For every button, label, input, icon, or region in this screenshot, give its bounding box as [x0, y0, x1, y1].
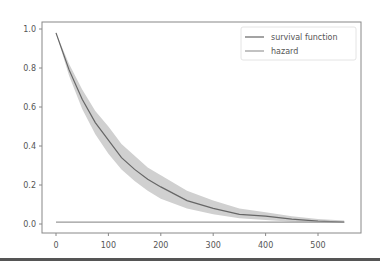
y-tick-label: 0.6 — [23, 103, 36, 112]
y-tick-label: 0.2 — [23, 181, 36, 190]
legend-box — [241, 27, 356, 60]
x-tick-label: 0 — [53, 241, 58, 250]
legend-label-hazard: hazard — [271, 47, 298, 56]
survival-function-line — [56, 33, 344, 222]
y-tick-label: 0.8 — [23, 64, 36, 73]
x-tick-label: 500 — [310, 241, 325, 250]
legend: survival function hazard — [241, 27, 356, 60]
x-tick-label: 300 — [206, 241, 221, 250]
bottom-divider — [0, 258, 380, 261]
y-tick-label: 0.0 — [23, 220, 36, 229]
x-tick-label: 400 — [258, 241, 273, 250]
survival-chart: 0.00.20.40.60.81.0 0100200300400500 surv… — [0, 0, 380, 267]
y-tick-label: 1.0 — [23, 25, 36, 34]
x-tick-label: 100 — [101, 241, 116, 250]
y-axis: 0.00.20.40.60.81.0 — [23, 25, 42, 229]
x-tick-label: 200 — [153, 241, 168, 250]
y-tick-label: 0.4 — [23, 142, 36, 151]
plot-area — [56, 33, 344, 223]
legend-label-survival: survival function — [271, 33, 338, 42]
x-axis: 0100200300400500 — [53, 233, 325, 250]
